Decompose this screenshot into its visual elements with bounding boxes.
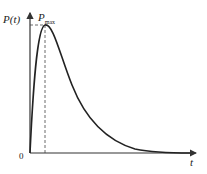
y-axis-label: P(t) (2, 13, 20, 26)
pulse-curve-diagram: P(t) Pmax 0 t (0, 0, 207, 174)
peak-label: Pmax (37, 11, 55, 25)
pulse-curve (30, 25, 190, 153)
origin-label: 0 (19, 151, 24, 161)
x-axis-label: t (190, 156, 194, 168)
